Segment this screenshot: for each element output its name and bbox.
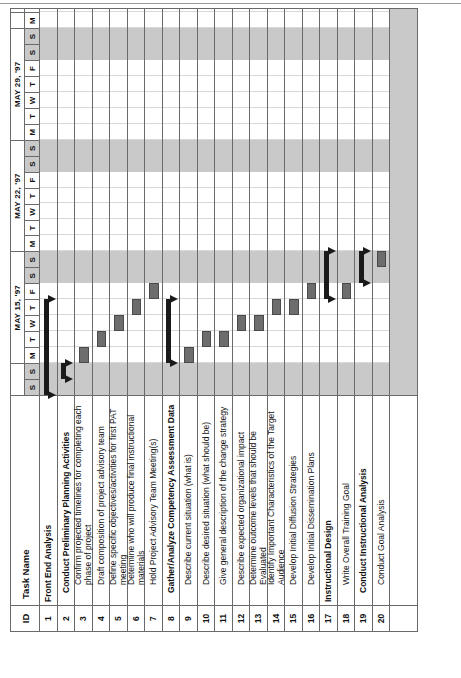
row-gridline-8 [179, 9, 180, 395]
summary-bar-17[interactable] [324, 251, 329, 299]
week-label-blank-0 [11, 363, 24, 395]
task-row-1[interactable]: Front End Analysis [40, 396, 58, 605]
day-gridline-23 [40, 11, 417, 12]
row-id-17[interactable]: 17 [320, 606, 338, 631]
day-header-11: W [25, 204, 39, 220]
row-id-19[interactable]: 19 [355, 606, 373, 631]
task-row-19[interactable]: Conduct Instructional Analysis [355, 396, 373, 605]
task-bar-6[interactable] [132, 299, 142, 315]
day-header-1: S [25, 363, 39, 379]
summary-cap-1-start [48, 391, 56, 399]
row-id-13[interactable]: 13 [250, 606, 268, 631]
row-gridline-2 [74, 9, 75, 395]
day-header-2: M [25, 347, 39, 363]
row-gridline-14 [284, 9, 285, 395]
task-row-17[interactable]: Instructional Design [320, 396, 338, 605]
row-gridline-19 [372, 9, 373, 395]
row-id-15[interactable]: 15 [285, 606, 303, 631]
task-bar-16[interactable] [307, 283, 317, 299]
day-header-22: S [25, 28, 39, 44]
row-id-6[interactable]: 6 [128, 606, 146, 631]
row-id-14[interactable]: 14 [268, 606, 286, 631]
row-id-11[interactable]: 11 [215, 606, 233, 631]
day-gridline-1 [40, 362, 417, 363]
task-row-3[interactable]: Confirm projected timelines for completi… [75, 396, 93, 605]
summary-bar-1[interactable] [44, 299, 49, 395]
row-gridline-10 [214, 9, 215, 395]
weekend-shade-21 [40, 44, 417, 60]
day-gridline-18 [40, 91, 417, 92]
gantt-page: ID Task Name MAY 15, '97MAY 22, '97MAY 2… [0, 0, 461, 678]
row-id-1[interactable]: 1 [40, 606, 58, 631]
task-bar-5[interactable] [114, 315, 124, 331]
summary-cap-2-end [65, 359, 73, 367]
row-id-18[interactable]: 18 [338, 606, 356, 631]
row-id-8[interactable]: 8 [163, 606, 181, 631]
gantt-bars-area [40, 9, 417, 395]
row-id-10[interactable]: 10 [198, 606, 216, 631]
day-header-8: S [25, 251, 39, 267]
row-id-5[interactable]: 5 [110, 606, 128, 631]
day-header-10: T [25, 220, 39, 236]
task-bar-4[interactable] [97, 331, 107, 347]
task-row-18[interactable]: Write Overall Training Goal [338, 396, 356, 605]
row-gridline-3 [92, 9, 93, 395]
task-row-6[interactable]: Determine who will produce final instruc… [128, 396, 146, 605]
timeline-header: MAY 15, '97MAY 22, '97MAY 29, '97 SSMTWT… [11, 9, 39, 395]
task-row-7[interactable]: Hold Project Advisory Team Meeting(s) [145, 396, 163, 605]
day-gridline-22 [40, 27, 417, 28]
task-bar-10[interactable] [202, 331, 212, 347]
day-header-4: W [25, 315, 39, 331]
day-gridline-19 [40, 75, 417, 76]
task-row-11[interactable]: Give general description of the change s… [215, 396, 233, 605]
row-id-12[interactable]: 12 [233, 606, 251, 631]
row-id-7[interactable]: 7 [145, 606, 163, 631]
task-row-9[interactable]: Describe current situation (what is) [180, 396, 198, 605]
row-id-20[interactable]: 20 [373, 606, 391, 631]
task-row-14[interactable]: Identify Important Characteristics of th… [268, 396, 286, 605]
task-bar-11[interactable] [219, 331, 229, 347]
row-gridline-18 [354, 9, 355, 395]
row-gridline-12 [249, 9, 250, 395]
week-label-1: MAY 15, '97 [11, 251, 24, 363]
task-row-8[interactable]: Gather/Analyze Competency Assessment Dat… [163, 396, 181, 605]
task-bar-7[interactable] [149, 283, 159, 299]
week-label-2: MAY 22, '97 [11, 140, 24, 252]
task-bar-3[interactable] [79, 347, 89, 363]
task-bar-15[interactable] [289, 299, 299, 315]
summary-cap-1-end [48, 295, 56, 303]
day-header-16: M [25, 124, 39, 140]
row-id-16[interactable]: 16 [303, 606, 321, 631]
column-header-task-name: Task Name [11, 395, 39, 605]
day-header-13: F [25, 172, 39, 188]
task-bar-20[interactable] [377, 251, 387, 267]
summary-cap-8-end [170, 295, 178, 303]
task-row-15[interactable]: Develop Initial Diffusion Strategies [285, 396, 303, 605]
day-header-6: F [25, 283, 39, 299]
task-bar-18[interactable] [342, 283, 352, 299]
row-id-2[interactable]: 2 [58, 606, 76, 631]
task-row-10[interactable]: Describe desired situation (what should … [198, 396, 216, 605]
day-header-9: M [25, 235, 39, 251]
chart-bottom-filler [390, 9, 417, 395]
day-header-7: S [25, 267, 39, 283]
column-header-id: ID [11, 605, 39, 631]
row-gridline-6 [144, 9, 145, 395]
row-gridline-17 [337, 9, 338, 395]
task-row-20[interactable]: Conduct Goal Analysis [373, 396, 391, 605]
day-gridline-12 [40, 187, 417, 188]
summary-cap-8-start [170, 359, 178, 367]
row-id-3[interactable]: 3 [75, 606, 93, 631]
summary-bar-8[interactable] [166, 299, 171, 363]
task-bar-14[interactable] [272, 299, 282, 315]
task-bar-13[interactable] [254, 315, 264, 331]
task-bar-9[interactable] [184, 347, 194, 363]
row-id-9[interactable]: 9 [180, 606, 198, 631]
day-gridline-4 [40, 314, 417, 315]
row-id-4[interactable]: 4 [93, 606, 111, 631]
rotated-container: ID Task Name MAY 15, '97MAY 22, '97MAY 2… [0, 0, 427, 640]
weekend-shade-1 [40, 363, 417, 379]
task-row-16[interactable]: Develop Initial Dissemination Plans [303, 396, 321, 605]
task-bar-12[interactable] [237, 315, 247, 331]
summary-cap-2-start [65, 375, 73, 383]
